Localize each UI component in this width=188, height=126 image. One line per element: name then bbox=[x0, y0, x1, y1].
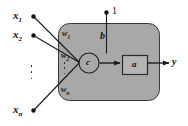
ellipsis-dot bbox=[64, 67, 66, 69]
activation-node-label: a bbox=[132, 60, 137, 69]
weight-label-w1: w1 bbox=[62, 30, 70, 40]
ellipsis-dot bbox=[31, 78, 33, 80]
input-dot-xn bbox=[31, 108, 35, 112]
ellipsis-dot bbox=[64, 62, 66, 64]
ellipsis-dot bbox=[64, 73, 66, 75]
neuron-diagram: x1 x2 xn w1 w2 wn 1 b c a y bbox=[0, 0, 188, 126]
output-label-y: y bbox=[172, 57, 176, 67]
input-dot-x2 bbox=[31, 33, 35, 37]
diagram-canvas bbox=[0, 0, 188, 126]
ellipsis-dot bbox=[31, 71, 33, 73]
bias-weight-label: b bbox=[100, 31, 105, 41]
input-ellipsis bbox=[30, 65, 33, 79]
input-label-x1: x1 bbox=[13, 10, 22, 24]
weight-label-w2: w2 bbox=[61, 52, 69, 62]
ellipsis-dot bbox=[31, 65, 33, 67]
input-label-x2: x2 bbox=[13, 29, 22, 43]
bias-constant-label: 1 bbox=[112, 6, 117, 16]
input-label-xn: xn bbox=[13, 104, 22, 118]
weight-ellipsis bbox=[63, 62, 66, 74]
weight-label-wn: wn bbox=[61, 86, 70, 96]
input-dot-bias bbox=[104, 10, 108, 14]
summation-node-label: c bbox=[86, 58, 90, 67]
input-dot-x1 bbox=[31, 14, 35, 18]
